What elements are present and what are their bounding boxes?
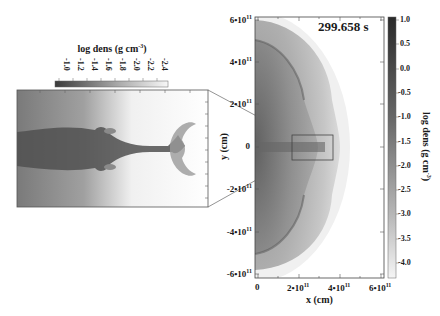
inset-colorbar-title: log dens (g cm-3) <box>62 43 162 54</box>
inset-colorbar <box>55 78 168 87</box>
main-colorbar-title: log dens (g cm-3) <box>421 112 432 181</box>
inset-panel <box>17 90 208 207</box>
main-y-axis-title: y (cm) <box>218 133 229 160</box>
time-label: 299.658 s <box>318 19 369 35</box>
main-x-axis-title: x (cm) <box>306 294 333 305</box>
